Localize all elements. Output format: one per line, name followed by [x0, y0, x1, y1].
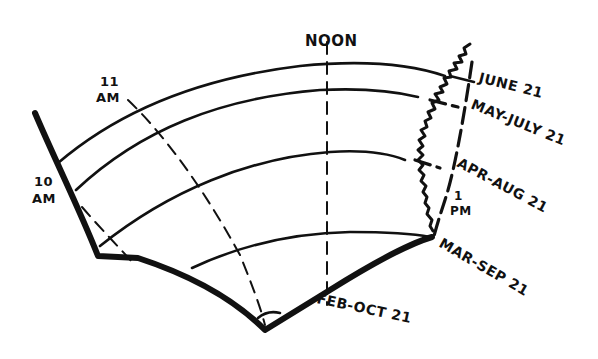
sun-path-may-july-21 [76, 89, 418, 190]
vertex-arc [258, 312, 280, 318]
mar-sep-21-label: MAR-SEP 21 [437, 235, 532, 299]
ten-am-label-suffix: AM [32, 191, 56, 206]
eleven-am-label-suffix: AM [96, 90, 120, 105]
eleven-am-label-number: 11 [100, 74, 119, 89]
one-pm-label-suffix: PM [450, 204, 472, 218]
may-july-21-label: MAY-JULY 21 [469, 96, 568, 149]
sun-path-diagram: NOON 11 AM 10 AM 1 PM JUNE 21 MAY-JULY 2… [0, 0, 598, 359]
june-21-label: JUNE 21 [476, 69, 545, 101]
noon-label: NOON [305, 32, 358, 50]
feb-oct-21-label: FEB-OCT 21 [315, 290, 413, 326]
one-pm-label-number: 1 [454, 189, 463, 203]
ten-am-label-number: 10 [34, 174, 53, 189]
